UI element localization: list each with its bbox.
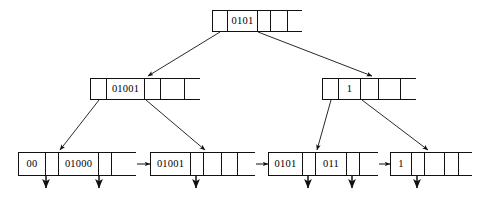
edge-root-to-internal-left bbox=[148, 32, 220, 76]
leaf-node-1-cell-2-key[interactable]: 01000 bbox=[59, 153, 99, 175]
root-node-cell-4-empty[interactable] bbox=[288, 11, 303, 31]
edge-root-to-internal-right bbox=[258, 32, 372, 76]
leaf-node-1-cell-0-key[interactable]: 00 bbox=[19, 153, 46, 175]
internal-node-left[interactable]: 01001 bbox=[90, 78, 200, 100]
edge-internal-left-to-leaf-2 bbox=[146, 100, 205, 150]
leaf-node-3[interactable]: 0101011 bbox=[268, 152, 378, 176]
leaf-node-3-cell-3-pointer[interactable] bbox=[347, 153, 360, 175]
root-node-cell-2-pointer[interactable] bbox=[258, 11, 271, 31]
leaf-node-1[interactable]: 0001000 bbox=[18, 152, 136, 176]
internal-node-right-cell-3-empty[interactable] bbox=[379, 79, 401, 99]
b-plus-tree-diagram: 0101 01001 1 0001000 01001 0101011 1 bbox=[0, 0, 487, 200]
leaf-node-3-cell-2-key[interactable]: 011 bbox=[316, 153, 347, 175]
internal-node-left-cell-0-pointer[interactable] bbox=[91, 79, 107, 99]
leaf-node-3-cell-0-key[interactable]: 0101 bbox=[269, 153, 303, 175]
leaf-node-2-cell-0-key[interactable]: 01001 bbox=[151, 153, 191, 175]
internal-node-right[interactable]: 1 bbox=[322, 78, 416, 100]
edge-internal-right-to-leaf-4 bbox=[362, 100, 428, 150]
leaf-node-2-cell-2-empty[interactable] bbox=[204, 153, 222, 175]
internal-node-left-cell-4-empty[interactable] bbox=[185, 79, 201, 99]
internal-node-right-cell-4-empty[interactable] bbox=[401, 79, 417, 99]
leaf-node-3-cell-4-next[interactable] bbox=[360, 153, 379, 175]
leaf-node-4-cell-4-empty[interactable] bbox=[459, 153, 473, 175]
leaf-node-1-cell-1-pointer[interactable] bbox=[46, 153, 59, 175]
leaf-node-4-cell-0-key[interactable]: 1 bbox=[391, 153, 412, 175]
leaf-node-2-cell-3-empty[interactable] bbox=[222, 153, 238, 175]
internal-node-left-cell-3-empty[interactable] bbox=[161, 79, 185, 99]
internal-node-left-cell-2-pointer[interactable] bbox=[145, 79, 161, 99]
leaf-node-1-cell-4-next[interactable] bbox=[112, 153, 137, 175]
leaf-node-3-cell-1-pointer[interactable] bbox=[303, 153, 316, 175]
root-node[interactable]: 0101 bbox=[212, 10, 302, 32]
leaf-node-4[interactable]: 1 bbox=[390, 152, 472, 176]
edge-internal-left-to-leaf-1 bbox=[60, 100, 99, 150]
leaf-node-4-cell-1-pointer[interactable] bbox=[412, 153, 425, 175]
leaf-node-4-cell-2-empty[interactable] bbox=[425, 153, 445, 175]
root-node-cell-0-pointer[interactable] bbox=[213, 11, 228, 31]
internal-node-right-cell-2-pointer[interactable] bbox=[361, 79, 379, 99]
root-node-cell-3-empty[interactable] bbox=[271, 11, 288, 31]
leaf-node-2[interactable]: 01001 bbox=[150, 152, 255, 176]
internal-node-right-cell-0-pointer[interactable] bbox=[323, 79, 339, 99]
leaf-node-1-cell-3-pointer[interactable] bbox=[99, 153, 112, 175]
leaf-node-4-cell-3-empty[interactable] bbox=[445, 153, 459, 175]
leaf-node-2-cell-4-next[interactable] bbox=[238, 153, 256, 175]
root-node-cell-1-key[interactable]: 0101 bbox=[228, 11, 258, 31]
leaf-node-2-cell-1-pointer[interactable] bbox=[191, 153, 204, 175]
edge-internal-right-to-leaf-3 bbox=[317, 100, 331, 150]
internal-node-left-cell-1-key[interactable]: 01001 bbox=[107, 79, 145, 99]
internal-node-right-cell-1-key[interactable]: 1 bbox=[339, 79, 361, 99]
